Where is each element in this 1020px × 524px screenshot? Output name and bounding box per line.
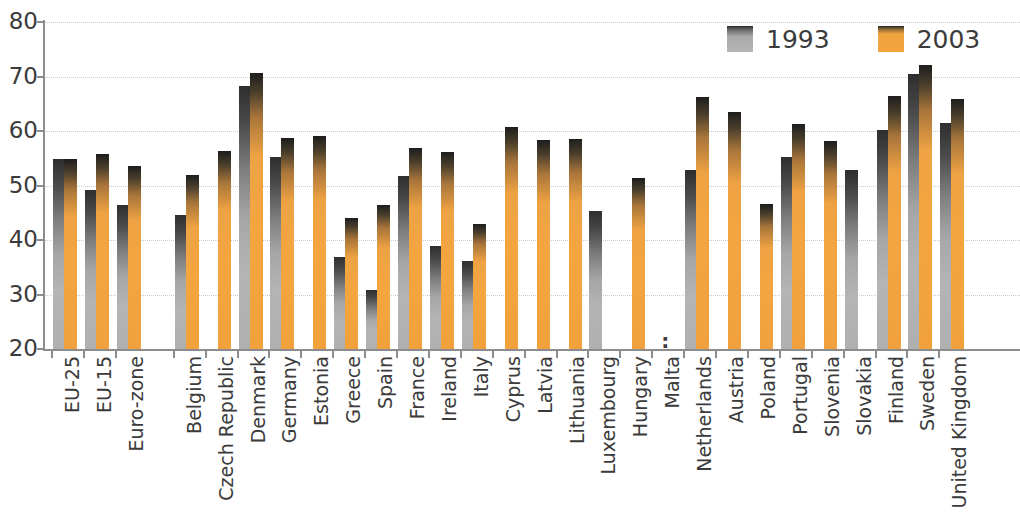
y-axis-tick-label: 70 xyxy=(2,65,38,88)
x-axis-tick-label: Slovakia xyxy=(855,356,874,436)
x-axis-tick-mark xyxy=(619,351,621,358)
x-axis-tick-label: France xyxy=(408,356,427,419)
bar-2003 xyxy=(792,124,805,349)
x-axis-tick-label: Hungary xyxy=(631,356,650,437)
bar-2003 xyxy=(888,96,901,349)
orange-swatch-icon xyxy=(878,26,904,52)
y-axis-tick-label: 20 xyxy=(2,337,38,360)
x-axis-tick-label: United Kingdom xyxy=(950,356,969,509)
x-axis-tick-mark xyxy=(332,351,334,358)
bar-2003 xyxy=(250,73,263,349)
gray-swatch-icon xyxy=(727,26,753,52)
bar-2003 xyxy=(186,175,199,349)
x-axis-tick-label: Germany xyxy=(280,356,299,443)
x-axis-tick-label: Ireland xyxy=(440,356,459,422)
legend-item-1993: 1993 xyxy=(727,26,830,52)
bar-1993 xyxy=(589,211,602,349)
y-axis-tick-label: 60 xyxy=(2,119,38,142)
legend-label-2003: 2003 xyxy=(917,27,981,52)
x-axis-tick-label: Euro-zone xyxy=(127,356,146,452)
x-axis-tick-mark xyxy=(115,351,117,358)
bar-2003 xyxy=(218,151,231,349)
x-axis-tick-label: Belgium xyxy=(185,356,204,434)
bar-2003 xyxy=(345,218,358,349)
x-axis-tick-mark xyxy=(396,351,398,358)
x-axis-tick-mark xyxy=(173,351,175,358)
bar-2003 xyxy=(537,140,550,349)
missing-data-marker: : xyxy=(661,335,669,347)
bar-2003 xyxy=(951,99,964,349)
bar-1993 xyxy=(845,170,858,349)
y-axis-tick-label: 30 xyxy=(2,283,38,306)
x-axis-tick-mark xyxy=(460,351,462,358)
x-axis-tick-label: Malta xyxy=(663,356,682,408)
x-axis-tick-label: Lithuania xyxy=(568,356,587,444)
x-axis-tick-label: EU-15 xyxy=(95,356,114,413)
y-axis-tick-label: 40 xyxy=(2,228,38,251)
x-axis-tick-label: Slovenia xyxy=(823,356,842,437)
x-axis-tick-label: Austria xyxy=(727,356,746,423)
x-axis-tick-mark xyxy=(364,351,366,358)
x-axis-tick-mark xyxy=(51,351,53,358)
bar-2003 xyxy=(696,97,709,349)
bar-2003 xyxy=(505,127,518,349)
bar-2003 xyxy=(632,178,645,349)
bar-2003 xyxy=(313,136,326,349)
x-axis-tick-label: Latvia xyxy=(536,356,555,414)
bar-2003 xyxy=(96,154,109,349)
bar-2003 xyxy=(824,141,837,349)
bar-2003 xyxy=(128,166,141,349)
legend-item-2003: 2003 xyxy=(878,26,981,52)
x-axis-tick-label: EU-25 xyxy=(63,356,82,413)
x-axis-tick-mark xyxy=(747,351,749,358)
x-axis-tick-label: Czech Republic xyxy=(217,356,236,501)
bar-2003 xyxy=(569,139,582,349)
bar-chart: 20304050607080 : EU-25EU-15Euro-zoneBelg… xyxy=(0,0,1020,524)
x-axis-tick-mark xyxy=(83,351,85,358)
x-axis-tick-label: Italy xyxy=(472,356,491,397)
x-axis-tick-mark xyxy=(683,351,685,358)
x-axis-tick-label: Sweden xyxy=(918,356,937,431)
bar-2003 xyxy=(281,138,294,349)
chart-legend: 1993 2003 xyxy=(727,22,980,56)
x-axis-tick-label: Netherlands xyxy=(695,356,714,472)
x-axis-tick-mark xyxy=(651,351,653,358)
x-axis-tick-label: Cyprus xyxy=(504,356,523,422)
x-axis-tick-mark xyxy=(715,351,717,358)
x-axis-tick-label: Denmark xyxy=(249,356,268,443)
bar-2003 xyxy=(64,159,77,349)
x-axis-line xyxy=(43,349,1020,351)
bar-2003 xyxy=(409,148,422,349)
x-axis-tick-label: Luxembourg xyxy=(599,356,618,474)
x-axis-tick-label: Poland xyxy=(759,356,778,419)
bar-2003 xyxy=(473,224,486,349)
y-axis-tick-label: 80 xyxy=(2,10,38,33)
y-axis-tick-label: 50 xyxy=(2,174,38,197)
x-axis-tick-label: Finland xyxy=(887,356,906,424)
bars-layer: : xyxy=(44,22,1020,349)
bar-2003 xyxy=(919,65,932,349)
x-axis-tick-label: Estonia xyxy=(312,356,331,426)
bar-2003 xyxy=(728,112,741,349)
x-axis-tick-label: Greece xyxy=(344,356,363,424)
bar-2003 xyxy=(441,152,454,349)
x-axis-tick-label: Spain xyxy=(376,356,395,409)
legend-label-1993: 1993 xyxy=(766,27,830,52)
x-axis-tick-label: Portugal xyxy=(791,356,810,435)
x-axis-tick-mark xyxy=(300,351,302,358)
bar-2003 xyxy=(760,204,773,350)
bar-2003 xyxy=(377,205,390,349)
x-axis-tick-mark xyxy=(428,351,430,358)
x-axis-tick-mark xyxy=(938,351,940,358)
x-axis-tick-mark xyxy=(779,351,781,358)
